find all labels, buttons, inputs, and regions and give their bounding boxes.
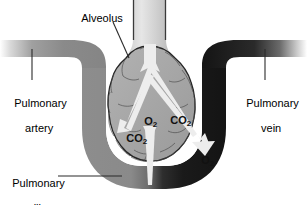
gas-label-co2-upper: CO2 <box>158 102 191 138</box>
gas-label-co2-upper-text: CO <box>170 114 187 126</box>
gas-label-o2-lower-right-text: O <box>201 154 210 166</box>
gas-label-o2-lower-right: O2 <box>189 142 214 178</box>
gas-label-co2-left-sub: 2 <box>143 137 147 146</box>
alveolus-gas-exchange-diagram: Alveolus Pulmonary artery Pulmonary vein… <box>0 0 307 205</box>
label-pulmonary-vein-line2: vein <box>261 122 281 134</box>
label-pulmonary-artery: Pulmonary artery <box>2 84 64 147</box>
leader-alveolus <box>113 22 129 58</box>
label-pulmonary-capillary: Pulmonary capillary <box>0 164 60 205</box>
label-alveolus: Alveolus <box>72 12 132 25</box>
label-pulmonary-artery-line2: artery <box>25 122 53 134</box>
label-pulmonary-capillary-line2: capillary <box>16 202 56 206</box>
gas-label-co2-upper-sub: 2 <box>187 119 191 128</box>
label-pulmonary-capillary-line1: Pulmonary <box>12 177 65 189</box>
gas-label-o2-upper-sub: 2 <box>153 120 157 129</box>
label-pulmonary-vein-line1: Pulmonary <box>246 97 299 109</box>
gas-label-co2-left: CO2 <box>114 120 147 156</box>
gas-label-co2-left-text: CO <box>126 132 143 144</box>
gas-label-o2-lower-right-sub: 2 <box>210 159 214 168</box>
label-pulmonary-vein: Pulmonary vein <box>234 84 296 147</box>
label-pulmonary-artery-line1: Pulmonary <box>14 97 67 109</box>
